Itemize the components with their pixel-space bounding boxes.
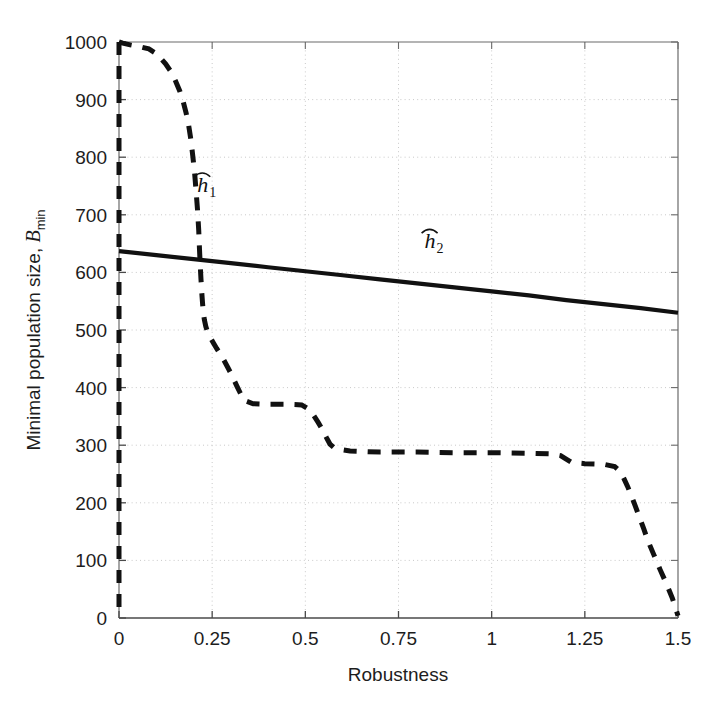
x-tick-label: 0 bbox=[114, 628, 125, 649]
y-tick-label: 1000 bbox=[65, 32, 107, 53]
series-label-subscript: 1 bbox=[209, 185, 216, 200]
x-tick-label: 0.5 bbox=[292, 628, 318, 649]
y-tick-label: 800 bbox=[75, 147, 107, 168]
y-tick-label: 700 bbox=[75, 205, 107, 226]
y-tick-label: 400 bbox=[75, 378, 107, 399]
y-tick-label: 900 bbox=[75, 90, 107, 111]
x-tick-label: 1.25 bbox=[566, 628, 603, 649]
y-tick-label: 0 bbox=[96, 608, 107, 629]
x-axis-title: Robustness bbox=[348, 664, 448, 685]
y-tick-label: 300 bbox=[75, 435, 107, 456]
figure-container: 00.250.50.7511.251.5 0100200300400500600… bbox=[0, 0, 726, 705]
x-tick-label: 0.25 bbox=[194, 628, 231, 649]
y-axis-title-symbol: B bbox=[22, 230, 44, 242]
y-axis-title-subscript: min bbox=[33, 209, 48, 230]
series-label-base: h bbox=[197, 172, 208, 197]
y-tick-label: 600 bbox=[75, 262, 107, 283]
y-tick-label: 200 bbox=[75, 493, 107, 514]
x-tick-label: 1 bbox=[486, 628, 497, 649]
y-axis-title-main: Minimal population size, bbox=[23, 243, 44, 451]
y-tick-label: 500 bbox=[75, 320, 107, 341]
x-tick-label: 1.5 bbox=[665, 628, 691, 649]
y-tick-label: 100 bbox=[75, 550, 107, 571]
chart-background bbox=[0, 0, 726, 705]
series-label-subscript: 2 bbox=[437, 241, 444, 256]
line-chart: 00.250.50.7511.251.5 0100200300400500600… bbox=[0, 0, 726, 705]
series-label-base: h bbox=[425, 228, 436, 253]
x-tick-label: 0.75 bbox=[380, 628, 417, 649]
